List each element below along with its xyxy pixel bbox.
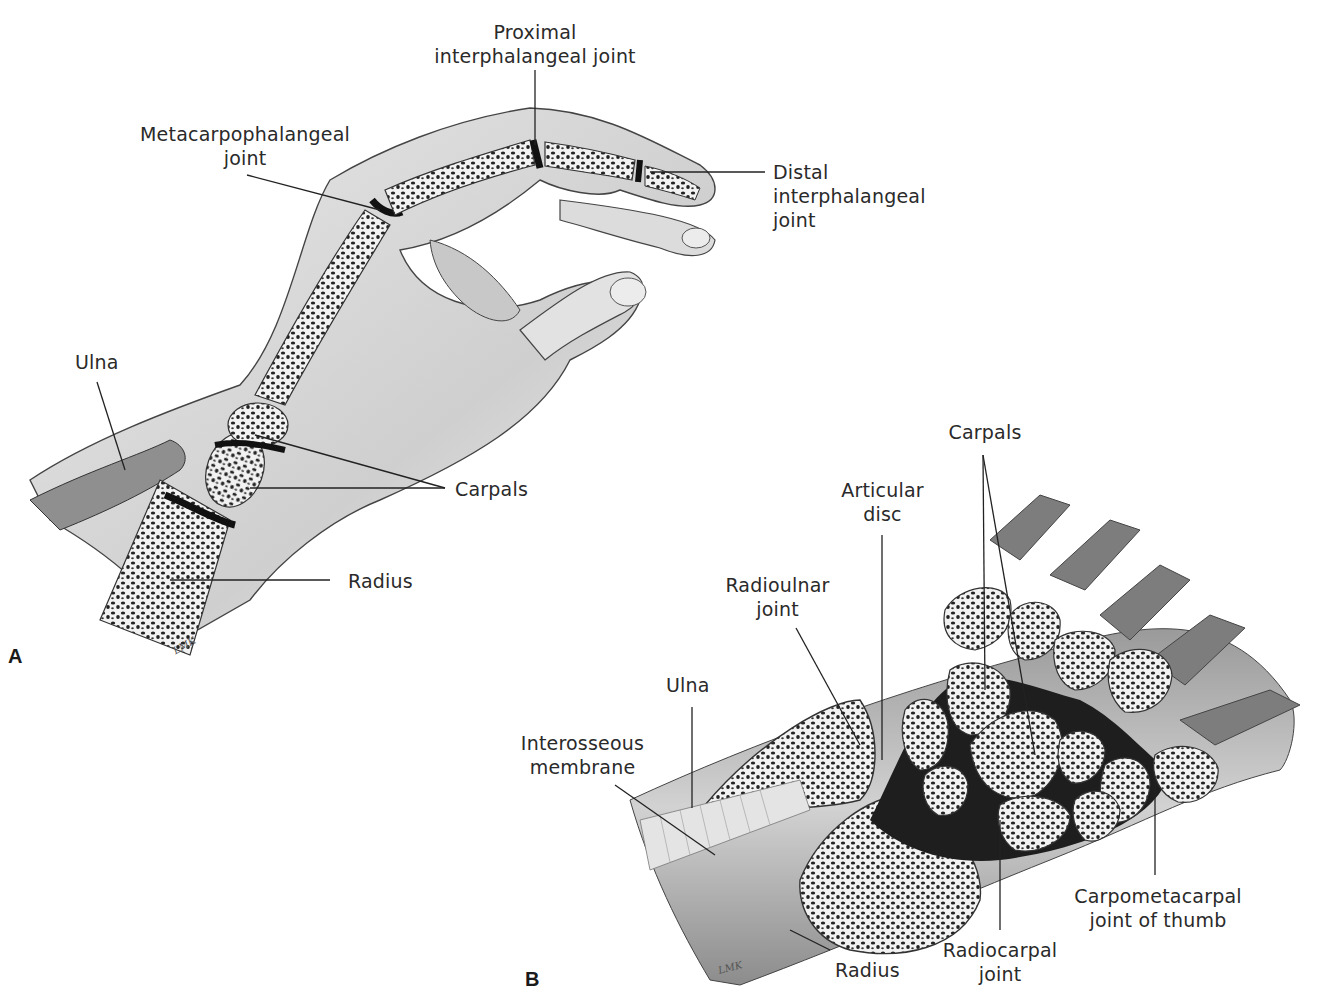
label-metacarpophalangeal-joint: Metacarpophalangeal joint [130, 122, 360, 170]
label-radiocarpal-joint: Radiocarpal joint [930, 938, 1070, 986]
label-ulna-a: Ulna [75, 350, 119, 374]
label-interosseous-membrane: Interosseous membrane [515, 731, 650, 779]
label-radius-b: Radius [835, 958, 900, 982]
label-distal-interphalangeal-joint: Distal interphalangeal joint [773, 160, 953, 232]
label-carpometacarpal-joint-of-thumb: Carpometacarpal joint of thumb [1063, 884, 1253, 932]
label-proximal-interphalangeal-joint: Proximal interphalangeal joint [430, 20, 640, 68]
anatomy-figure: Proximal interphalangeal joint Metacarpo… [0, 0, 1321, 998]
label-carpals-b: Carpals [930, 420, 1040, 444]
label-ulna-b: Ulna [666, 673, 710, 697]
label-radius-a: Radius [348, 569, 413, 593]
label-carpals-a: Carpals [455, 477, 528, 501]
panel-label-a: A [8, 645, 22, 668]
label-articular-disc: Articular disc [825, 478, 940, 526]
label-radioulnar-joint: Radioulnar joint [715, 573, 840, 621]
panel-label-b: B [525, 968, 539, 991]
